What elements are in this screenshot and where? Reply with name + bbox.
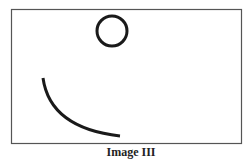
- curved-arc-shape: [43, 78, 120, 136]
- diagram-canvas: [0, 0, 251, 162]
- figure: Image III: [0, 0, 251, 162]
- circle-shape: [97, 16, 127, 46]
- figure-caption: Image III: [0, 145, 251, 160]
